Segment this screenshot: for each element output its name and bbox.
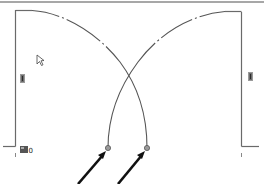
left-door-frame[interactable] bbox=[3, 10, 32, 157]
left-door-grip-icon[interactable] bbox=[20, 74, 25, 83]
right-door-grip-icon[interactable] bbox=[248, 72, 253, 81]
left-door-swing-arc[interactable] bbox=[32, 11, 147, 149]
mouse-cursor-icon bbox=[37, 55, 44, 66]
right-door-swing-arc[interactable] bbox=[108, 12, 225, 149]
endpoint-marker-left[interactable] bbox=[105, 145, 110, 150]
endpoint-marker-right[interactable] bbox=[144, 145, 149, 150]
pointer-arrow-right bbox=[118, 151, 145, 184]
drawing-canvas[interactable]: 0 bbox=[0, 0, 264, 184]
svg-text:0: 0 bbox=[29, 147, 33, 155]
right-door-frame[interactable] bbox=[225, 12, 259, 158]
origin-marker-icon[interactable]: 0 bbox=[20, 146, 33, 155]
pointer-arrow-left bbox=[78, 151, 106, 184]
